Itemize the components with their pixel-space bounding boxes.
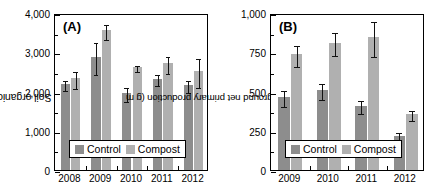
error-cap-upper bbox=[94, 43, 99, 44]
error-cap-upper bbox=[409, 111, 415, 112]
error-bar-compost-2009 bbox=[297, 46, 298, 66]
panel-b-y-major-tick bbox=[271, 133, 276, 134]
panel-a-y-tick-label: 3,000 bbox=[25, 48, 50, 59]
panel-b-plot-area: (B) Control Compost bbox=[270, 14, 424, 171]
error-cap-upper bbox=[396, 133, 402, 134]
panel-a-y-axis-title: Soil organic carbon (g m-2) bbox=[0, 0, 16, 196]
error-cap-lower bbox=[124, 102, 129, 103]
panel-a-y-major-tick bbox=[55, 54, 60, 55]
panel-b-y-tick-label: 250 bbox=[249, 126, 266, 137]
error-bar-control-2008 bbox=[65, 81, 66, 91]
error-cap-lower bbox=[155, 86, 160, 87]
panel-b-y-major-tick bbox=[271, 15, 276, 16]
error-cap-upper bbox=[155, 75, 160, 76]
panel-b-legend: Control Compost bbox=[285, 140, 402, 158]
panel-b-x-tick-label: 2010 bbox=[317, 173, 339, 184]
error-bar-compost-2010 bbox=[335, 33, 336, 56]
error-cap-lower bbox=[135, 72, 140, 73]
panel-b-x-tick bbox=[310, 166, 311, 170]
error-cap-lower bbox=[73, 89, 78, 90]
error-cap-upper bbox=[104, 25, 109, 26]
panel-a-y-minor-tick bbox=[55, 35, 58, 36]
panel-b-legend-entry-compost: Compost bbox=[342, 143, 396, 155]
error-cap-upper bbox=[319, 84, 325, 85]
panel-a-legend-entry-compost: Compost bbox=[126, 143, 180, 155]
panel-b-x-tick-label: 2011 bbox=[355, 173, 377, 184]
error-bar-compost-2008 bbox=[76, 72, 77, 89]
error-bar-control-2009 bbox=[284, 91, 285, 106]
panel-b-label: (B) bbox=[279, 19, 297, 34]
error-cap-upper bbox=[73, 72, 78, 73]
control-swatch-icon bbox=[75, 145, 84, 154]
panel-a-x-tick bbox=[178, 166, 179, 170]
panel-b-legend-entry-control: Control bbox=[291, 143, 337, 155]
panel-a: Soil organic carbon (g m-2) 01,0002,0003… bbox=[0, 0, 216, 196]
panel-a-legend-entry-control: Control bbox=[75, 143, 121, 155]
panel-a-x-tick-labels: 20082009201020112012 bbox=[54, 173, 208, 187]
panel-a-legend: Control Compost bbox=[69, 140, 186, 158]
panel-a-y-tick-label: 0 bbox=[44, 166, 50, 177]
panel-b-y-tick-label: 1,000 bbox=[241, 9, 266, 20]
error-cap-upper bbox=[294, 46, 300, 47]
panel-a-y-major-tick bbox=[55, 15, 60, 16]
error-cap-lower bbox=[104, 40, 109, 41]
panel-b-y-minor-tick bbox=[271, 35, 274, 36]
panel-b-legend-label-control: Control bbox=[303, 143, 337, 155]
panel-b-x-tick-label: 2009 bbox=[278, 173, 300, 184]
panel-a-y-tick-label: 2,000 bbox=[25, 87, 50, 98]
bar-control-2010 bbox=[317, 90, 329, 170]
panel-a-y-minor-tick bbox=[55, 113, 58, 114]
error-bar-compost-2009 bbox=[106, 25, 107, 40]
panel-b-y-tick-label: 750 bbox=[249, 48, 266, 59]
error-cap-upper bbox=[358, 101, 364, 102]
panel-a-x-tick-label: 2012 bbox=[181, 173, 203, 184]
panel-a-legend-label-control: Control bbox=[87, 143, 121, 155]
panel-a-y-tick-labels: 01,0002,0003,0004,000 bbox=[16, 0, 50, 196]
panel-a-y-tick-label: 1,000 bbox=[25, 126, 50, 137]
error-bar-control-2012 bbox=[188, 81, 189, 93]
panel-a-y-tick-label: 4,000 bbox=[25, 9, 50, 20]
error-cap-lower bbox=[332, 56, 338, 57]
panel-a-y-minor-tick bbox=[55, 74, 58, 75]
error-cap-lower bbox=[196, 88, 201, 89]
panel-a-y-minor-tick bbox=[55, 152, 58, 153]
panel-b-y-axis-title: Aboveground net primary production (g m-… bbox=[216, 0, 232, 196]
bar-control-2009 bbox=[278, 97, 290, 170]
error-bar-compost-2011 bbox=[374, 22, 375, 57]
error-cap-lower bbox=[94, 75, 99, 76]
error-cap-upper bbox=[196, 59, 201, 60]
error-cap-lower bbox=[358, 114, 364, 115]
panel-b-x-tick-label: 2012 bbox=[394, 173, 416, 184]
panel-b-y-minor-tick bbox=[271, 152, 274, 153]
panel-b-x-tick bbox=[348, 166, 349, 170]
error-bar-control-2010 bbox=[127, 88, 128, 102]
error-cap-lower bbox=[409, 121, 415, 122]
panel-b-y-major-tick bbox=[271, 54, 276, 55]
panel-b: Aboveground net primary production (g m-… bbox=[216, 0, 432, 196]
error-cap-upper bbox=[186, 81, 191, 82]
panel-b-y-minor-tick bbox=[271, 74, 274, 75]
panel-a-x-tick bbox=[117, 166, 118, 170]
panel-a-x-tick-label: 2011 bbox=[151, 173, 173, 184]
compost-swatch-icon bbox=[126, 145, 135, 154]
error-bar-compost-2012 bbox=[412, 111, 413, 121]
panel-a-y-major-tick bbox=[55, 94, 60, 95]
panel-a-plot-area: (A) Control Compost bbox=[54, 14, 208, 171]
error-cap-lower bbox=[186, 93, 191, 94]
panel-a-x-tick-label: 2008 bbox=[58, 173, 80, 184]
panel-b-x-tick-labels: 2009201020112012 bbox=[270, 173, 424, 187]
error-cap-upper bbox=[332, 33, 338, 34]
panel-a-y-major-tick bbox=[55, 133, 60, 134]
panel-a-x-tick bbox=[147, 166, 148, 170]
panel-a-x-tick-label: 2010 bbox=[120, 173, 142, 184]
error-cap-upper bbox=[63, 81, 68, 82]
error-cap-lower bbox=[319, 100, 325, 101]
error-cap-upper bbox=[124, 88, 129, 89]
error-cap-lower bbox=[281, 107, 287, 108]
error-cap-upper bbox=[281, 91, 287, 92]
panel-b-y-tick-label: 500 bbox=[249, 87, 266, 98]
compost-swatch-icon bbox=[342, 145, 351, 154]
error-bar-control-2009 bbox=[96, 43, 97, 74]
error-cap-lower bbox=[166, 74, 171, 75]
error-cap-lower bbox=[63, 91, 68, 92]
